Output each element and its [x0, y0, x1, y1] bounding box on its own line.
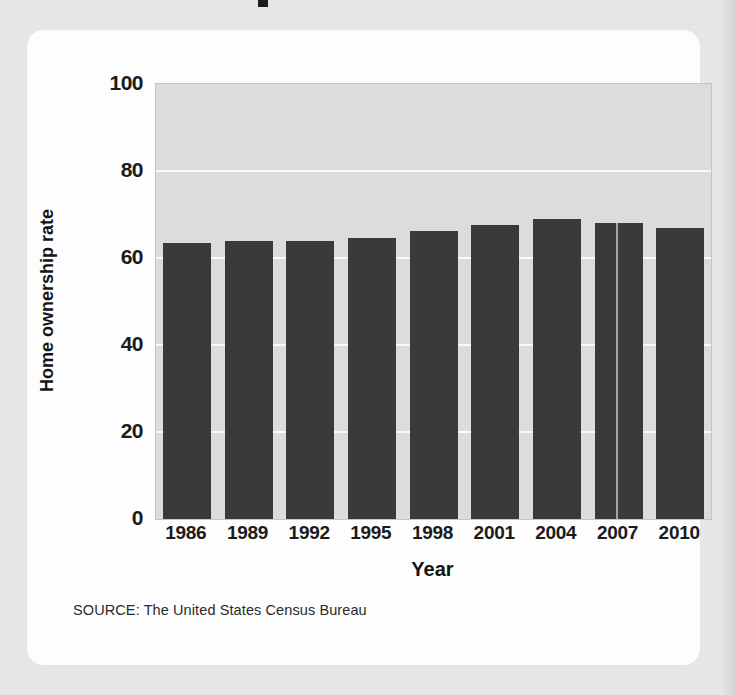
y-axis-tick-labels: 020406080100 [27, 30, 155, 665]
bar-2007 [595, 223, 643, 519]
bar-2010 [656, 228, 704, 519]
x-tick-label-2010: 2010 [659, 522, 700, 544]
cropped-title-fragment [258, 0, 268, 7]
x-tick-label-2001: 2001 [474, 522, 515, 544]
x-tick-label-1998: 1998 [412, 522, 453, 544]
chart-card: Home ownership rate 020406080100 1986198… [27, 30, 700, 665]
x-axis-tick-labels: 198619891992199519982001200420072010 [155, 522, 710, 550]
bar-scan-artifact-line [616, 223, 618, 519]
x-tick-label-1995: 1995 [350, 522, 391, 544]
bar-2001 [471, 225, 519, 519]
x-tick-label-2004: 2004 [535, 522, 576, 544]
plot-area [155, 83, 712, 520]
x-axis-title: Year [155, 558, 710, 581]
bar-1992 [286, 241, 334, 519]
y-tick-label-20: 20 [121, 419, 143, 443]
x-tick-label-1986: 1986 [165, 522, 206, 544]
x-tick-label-1989: 1989 [227, 522, 268, 544]
y-tick-label-80: 80 [121, 158, 143, 182]
y-tick-label-0: 0 [132, 506, 143, 530]
bar-series [156, 84, 711, 519]
source-note: SOURCE: The United States Census Bureau [73, 602, 367, 618]
x-tick-label-1992: 1992 [289, 522, 330, 544]
bar-1998 [410, 231, 458, 519]
x-tick-label-2007: 2007 [597, 522, 638, 544]
y-tick-label-60: 60 [121, 245, 143, 269]
bar-1995 [348, 238, 396, 519]
bar-1986 [163, 243, 211, 519]
page-right-edge-strip [723, 0, 736, 695]
bar-2004 [533, 219, 581, 519]
bar-1989 [225, 241, 273, 519]
y-tick-label-100: 100 [109, 71, 143, 95]
y-tick-label-40: 40 [121, 332, 143, 356]
